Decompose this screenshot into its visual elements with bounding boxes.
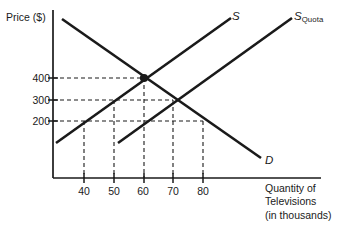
y-axis-title: Price ($) <box>6 11 46 23</box>
demand-curve <box>62 19 261 158</box>
supply-quota-curve-label: SQuota <box>294 10 323 24</box>
equilibrium-point-marker <box>140 74 148 82</box>
x-tick-label-70: 70 <box>160 185 186 197</box>
supply-quota-label-subscript: Quota <box>302 15 324 24</box>
curves <box>56 18 292 158</box>
y-tick-label-200: 200 <box>16 115 50 127</box>
x-axis-title-line-2: Televisions <box>265 195 341 208</box>
x-tick-label-60: 60 <box>130 185 156 197</box>
demand-curve-label: D <box>265 154 273 168</box>
supply-curve-label: S <box>232 10 240 24</box>
x-axis-title-line-1: Quantity of <box>265 182 341 195</box>
x-tick-label-50: 50 <box>101 185 127 197</box>
supply-demand-figure: Price ($) 400 300 200 40 50 60 70 80 Qua… <box>0 0 344 231</box>
x-axis-title-line-3: (in thousands) <box>265 209 341 222</box>
x-tick-label-80: 80 <box>190 185 216 197</box>
y-tick-label-400: 400 <box>16 72 50 84</box>
y-tick-label-300: 300 <box>16 94 50 106</box>
x-axis-title: Quantity of Televisions (in thousands) <box>265 182 341 222</box>
x-tick-label-40: 40 <box>71 185 97 197</box>
supply-quota-label-base: S <box>294 10 302 22</box>
